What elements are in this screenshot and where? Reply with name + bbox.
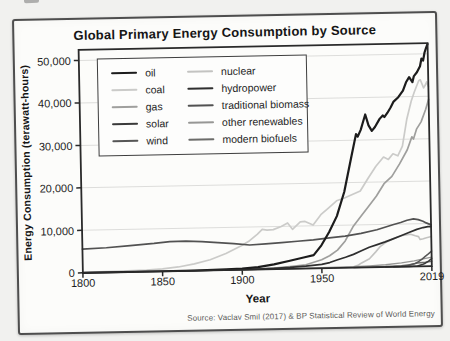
legend-label: coal [145, 83, 164, 95]
legend-label: other renewables [222, 115, 303, 129]
scanned-page: Global Primary Energy Consumption by Sou… [0, 0, 450, 341]
legend-label: modern biofuels [222, 132, 297, 145]
legend-label: traditional biomass [222, 97, 310, 111]
page-edge-artifact [24, 0, 39, 3]
gridline [81, 181, 430, 188]
y-tick-label: 20,000 [21, 182, 73, 195]
legend-swatch [188, 138, 214, 141]
legend: oilcoalgassolarwindnuclearhydropowertrad… [97, 54, 309, 156]
legend-label: oil [145, 66, 156, 78]
x-tick-label: 1950 [310, 272, 335, 284]
legend-swatch [187, 70, 213, 73]
source-credit: Source: Vaclav Smil (2017) & BP Statisti… [105, 309, 435, 324]
y-tick-label: 50,000 [19, 55, 71, 68]
legend-item-wind: wind [112, 134, 188, 147]
legend-item-other-renewables: other renewables [188, 115, 310, 129]
legend-swatch [188, 121, 214, 124]
y-tick-label: 0 [23, 267, 75, 280]
x-axis-label: Year [83, 289, 432, 308]
x-tick-label: 1800 [71, 277, 96, 289]
legend-label: solar [146, 117, 169, 129]
legend-item-coal: coal [111, 83, 187, 96]
legend-swatch [112, 140, 138, 143]
x-tick-label: 1850 [150, 275, 175, 287]
legend-item-oil: oil [111, 65, 187, 78]
legend-swatch [188, 104, 214, 107]
legend-item-gas: gas [112, 100, 188, 113]
legend-swatch [112, 123, 138, 126]
legend-label: wind [146, 134, 168, 146]
legend-item-modern-biofuels: modern biofuels [188, 132, 310, 146]
y-tick-label: 40,000 [20, 97, 72, 110]
legend-swatch [112, 106, 138, 109]
legend-item-solar: solar [112, 117, 188, 130]
legend-item-nuclear: nuclear [187, 63, 309, 77]
legend-label: hydropower [221, 81, 276, 94]
x-tick-label: 1900 [230, 273, 255, 285]
y-tick-label: 30,000 [20, 140, 72, 153]
legend-label: gas [146, 100, 163, 112]
y-tick-label: 10,000 [22, 224, 74, 237]
legend-item-hydropower: hydropower [187, 80, 309, 94]
figure-frame: Global Primary Energy Consumption by Sou… [12, 11, 443, 335]
legend-swatch [111, 71, 137, 74]
legend-label: nuclear [221, 64, 256, 77]
legend-swatch [187, 87, 213, 90]
legend-swatch [111, 88, 137, 91]
legend-item-traditional-biomass: traditional biomass [188, 97, 310, 111]
x-tick-label: 2019 [420, 270, 445, 282]
chart-title: Global Primary Energy Consumption by Sou… [14, 21, 435, 44]
y-axis-ticks: 010,00020,00030,00040,00050,000 [19, 50, 75, 274]
